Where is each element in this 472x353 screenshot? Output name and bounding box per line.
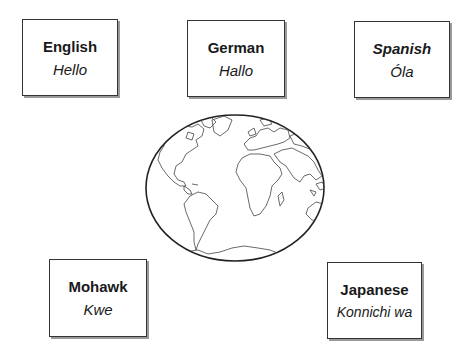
greeting-text: Hello	[53, 60, 87, 79]
greeting-text: Kwe	[83, 300, 112, 319]
language-name: Spanish	[373, 39, 431, 58]
card-english: English Hello	[22, 19, 118, 96]
card-spanish: Spanish Óla	[354, 21, 450, 98]
language-name: English	[43, 37, 97, 56]
greeting-text: Óla	[390, 62, 413, 81]
world-map-globe-icon	[140, 110, 330, 266]
language-name: Japanese	[340, 280, 408, 299]
language-name: Mohawk	[68, 277, 127, 296]
greeting-text: Konnichi wa	[337, 303, 413, 322]
card-japanese: Japanese Konnichi wa	[327, 262, 422, 339]
card-german: German Hallo	[187, 20, 285, 97]
language-name: German	[208, 38, 265, 57]
greeting-text: Hallo	[219, 61, 253, 80]
card-mohawk: Mohawk Kwe	[49, 259, 147, 337]
